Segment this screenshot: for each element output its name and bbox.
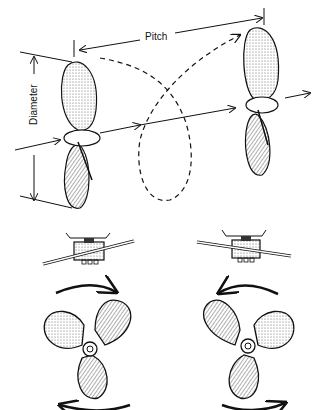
two-blade-propeller-left: [61, 62, 100, 208]
hub-topview-left: [43, 233, 134, 264]
two-blade-propeller-right: [244, 28, 279, 175]
rotation-arrow-counterclockwise-bottom: [222, 403, 285, 410]
helix-path: [100, 35, 240, 200]
pitch-label: Pitch: [145, 31, 167, 42]
propeller-diagram: Pitch Diameter: [0, 0, 323, 410]
three-blade-propeller-right-hand: [44, 300, 131, 398]
rotation-arrow-clockwise-top: [56, 285, 116, 293]
rotation-arrow-counterclockwise-top: [219, 286, 278, 294]
diameter-label: Diameter: [28, 84, 39, 125]
pitch-dimension: Pitch: [74, 8, 264, 57]
rotation-arrow-clockwise-bottom: [60, 405, 130, 410]
hub-topview-right: [197, 230, 291, 262]
three-blade-propeller-left-hand: [204, 300, 294, 398]
